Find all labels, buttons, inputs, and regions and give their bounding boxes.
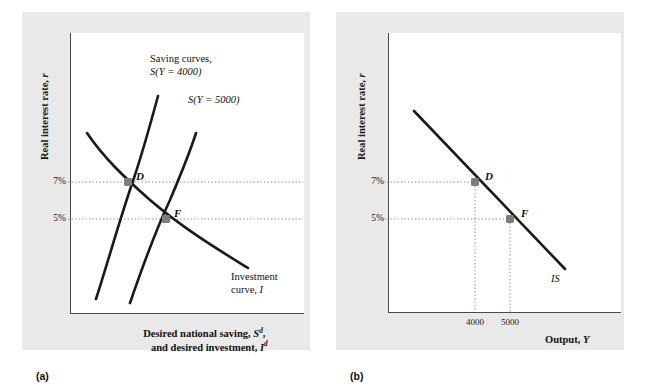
panel-b-curves-svg <box>0 0 646 392</box>
figure-canvas: Real interest rate, r 7% 5% Saving curve… <box>0 0 646 392</box>
panel-b-is-curve <box>414 111 565 269</box>
panel-b-point-d-marker <box>471 178 479 186</box>
panel-b-point-f-marker <box>506 215 514 223</box>
